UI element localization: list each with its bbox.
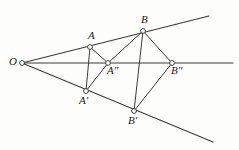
vertex-A [88, 45, 93, 50]
segment-A-A2 [90, 47, 108, 63]
segment-A1-A2 [86, 63, 108, 91]
label-A-text: A [88, 29, 95, 41]
label-A-prime-text: A [79, 94, 86, 106]
label-A-double-prime-text: A [107, 64, 114, 76]
vertices-group [20, 29, 175, 114]
label-B-text: B [141, 13, 148, 25]
label-O: O [9, 56, 17, 67]
vertex-B [141, 29, 146, 34]
geometry-figure: O A B A″ B″ A′ B′ [0, 0, 239, 150]
vertex-O [20, 61, 25, 66]
label-A-prime: A′ [79, 95, 88, 106]
label-A: A [88, 30, 95, 41]
figure-canvas [0, 0, 239, 150]
vertex-B-prime [132, 109, 137, 114]
label-O-text: O [9, 55, 17, 67]
label-B: B [141, 14, 148, 25]
label-B-double-prime-text: B [171, 64, 178, 76]
label-B-prime-text: B [128, 114, 135, 126]
segment-B-B2 [143, 31, 172, 63]
label-A-prime-mark: ′ [86, 94, 88, 106]
label-B-double-prime: B″ [171, 65, 182, 76]
segments-group [86, 31, 172, 111]
label-A-double-prime-mark: ″ [114, 64, 118, 76]
vertex-A-prime [84, 89, 89, 94]
segment-A-A1 [86, 47, 90, 91]
segment-A2-B [108, 31, 143, 63]
label-B-double-prime-mark: ″ [178, 64, 182, 76]
segment-B-B1 [134, 31, 143, 111]
label-B-prime-mark: ′ [135, 114, 137, 126]
label-B-prime: B′ [128, 115, 137, 126]
label-A-double-prime: A″ [107, 65, 118, 76]
segment-B1-B2 [134, 63, 172, 111]
